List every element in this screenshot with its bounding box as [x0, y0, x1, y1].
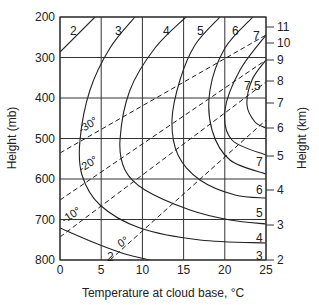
curve-label: 4	[256, 231, 263, 245]
curve-label: 6	[232, 24, 239, 38]
curve-label: 5	[197, 24, 204, 38]
y-tick-label-km: 7	[277, 96, 284, 110]
y-tick-label-mb: 800	[35, 253, 55, 267]
solid-curve-2	[60, 228, 150, 260]
solid-curve-7	[225, 35, 266, 155]
curve-label: 2	[70, 24, 77, 38]
isotherm-label: -10°	[59, 204, 83, 225]
y-tick-label-mb: 300	[35, 51, 55, 65]
y-tick-label-km: 2	[277, 253, 284, 267]
y-tick-label-km: 4	[277, 183, 284, 197]
y-tick-label-mb: 700	[35, 213, 55, 227]
grid	[60, 17, 266, 260]
y-tick-label-mb: 600	[35, 172, 55, 186]
y-tick-label-mb: 400	[35, 91, 55, 105]
y-tick-label-km: 10	[277, 36, 291, 50]
curve-label: 5	[256, 206, 263, 220]
solid-curve-2	[60, 17, 95, 52]
x-axis-label: Temperature at cloud base, °C	[82, 286, 245, 300]
x-tick-label: 15	[177, 263, 191, 277]
cloud-diagram-chart: 0510152025200300400500600700800234567891…	[0, 0, 319, 305]
y-tick-label-km: 8	[277, 74, 284, 88]
x-tick-label: 0	[57, 263, 64, 277]
curve-label: 2	[107, 250, 114, 264]
x-tick-label: 20	[218, 263, 232, 277]
y-tick-label-mb: 200	[35, 10, 55, 24]
y-tick-label-mb: 500	[35, 132, 55, 146]
solid-curve-7.5	[247, 60, 266, 128]
y-axis-right-label: Height (km)	[295, 107, 309, 169]
curve-label: 6	[256, 183, 263, 197]
y-tick-label-km: 9	[277, 53, 284, 67]
y-tick-label-km: 6	[277, 121, 284, 135]
x-tick-label: 25	[259, 263, 273, 277]
curve-label: 7	[253, 29, 260, 43]
curve-label: 3	[256, 249, 263, 263]
dashed-isotherms	[60, 35, 266, 260]
x-tick-label: 10	[136, 263, 150, 277]
solid-curve-5	[172, 17, 266, 198]
isotherm-label: 0°	[115, 234, 130, 250]
axes: 0510152025200300400500600700800234567891…	[35, 10, 291, 277]
y-tick-label-km: 5	[277, 149, 284, 163]
y-axis-left-label: Height (mb)	[5, 107, 19, 170]
curve-label: 7	[256, 155, 263, 169]
isotherm-line	[60, 35, 266, 153]
curve-label: 4	[163, 24, 170, 38]
curve-label: 3	[115, 24, 122, 38]
y-tick-label-km: 11	[277, 20, 290, 34]
x-tick-label: 5	[98, 263, 105, 277]
curve-label: 7.5	[244, 79, 261, 93]
y-tick-label-km: 3	[277, 218, 284, 232]
